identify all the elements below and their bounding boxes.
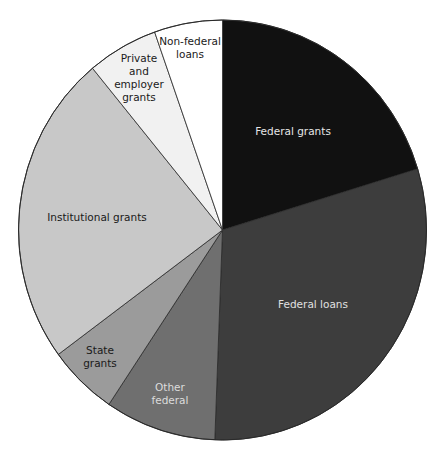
slice-label-other-federal: Otherfederal: [152, 381, 189, 406]
slice-label-state-grants: Stategrants: [83, 344, 117, 369]
slice-label-institutional-grants: Institutional grants: [47, 211, 147, 223]
pie-chart: Federal grantsFederal loansOtherfederalS…: [0, 0, 446, 455]
pie-slices: [19, 20, 427, 440]
slice-label-federal-grants: Federal grants: [255, 125, 331, 137]
slice-label-federal-loans: Federal loans: [278, 298, 348, 310]
